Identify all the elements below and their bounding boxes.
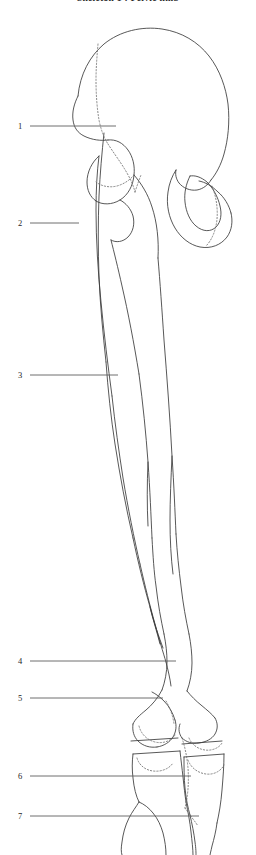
label-number-1: 1 [18,122,22,131]
label-number-4: 4 [18,657,22,666]
leader-line-group [0,0,256,855]
label-number-3: 3 [18,371,22,380]
label-number-2: 2 [18,219,22,228]
label-number-6: 6 [18,772,22,781]
label-number-7: 7 [18,812,22,821]
label-number-5: 5 [18,694,22,703]
anatomical-figure: Skeleton 1 : Pelvic limb 1234567 [0,0,256,855]
